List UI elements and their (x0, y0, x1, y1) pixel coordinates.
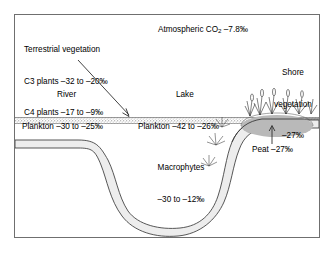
c3-plants-value: C3 plants –32 to –20‰ (24, 77, 108, 88)
c4-plants-value: C4 plants –17 to –9‰ (24, 108, 108, 119)
terrestrial-title: Terrestrial vegetation (24, 45, 108, 56)
plankton-lake-label: Plankton –42 to –26‰ (138, 122, 219, 133)
shore-line2: vegetation (262, 100, 324, 111)
shore-line1: Shore (262, 68, 324, 79)
plankton-river-label: Plankton –30 to –25‰ (22, 122, 103, 133)
atmospheric-co2-label: Atmospheric CO2 –7.8‰ (158, 25, 248, 36)
macrophytes-title: Macrophytes (144, 163, 218, 174)
river-zone-label: River (57, 90, 76, 101)
macrophytes-value: –30 to –12‰ (144, 195, 218, 206)
shore-value: –27‰ (262, 131, 324, 142)
lake-zone-label: Lake (176, 90, 194, 101)
figure-container: Terrestrial vegetation C3 plants –32 to … (0, 0, 333, 254)
peat-label: Peat –27‰ (252, 145, 293, 156)
macrophytes-label: Macrophytes –30 to –12‰ (144, 142, 218, 226)
atmospheric-co2-prefix: Atmospheric CO (158, 25, 218, 34)
atmospheric-co2-value: –7.8‰ (222, 25, 248, 34)
